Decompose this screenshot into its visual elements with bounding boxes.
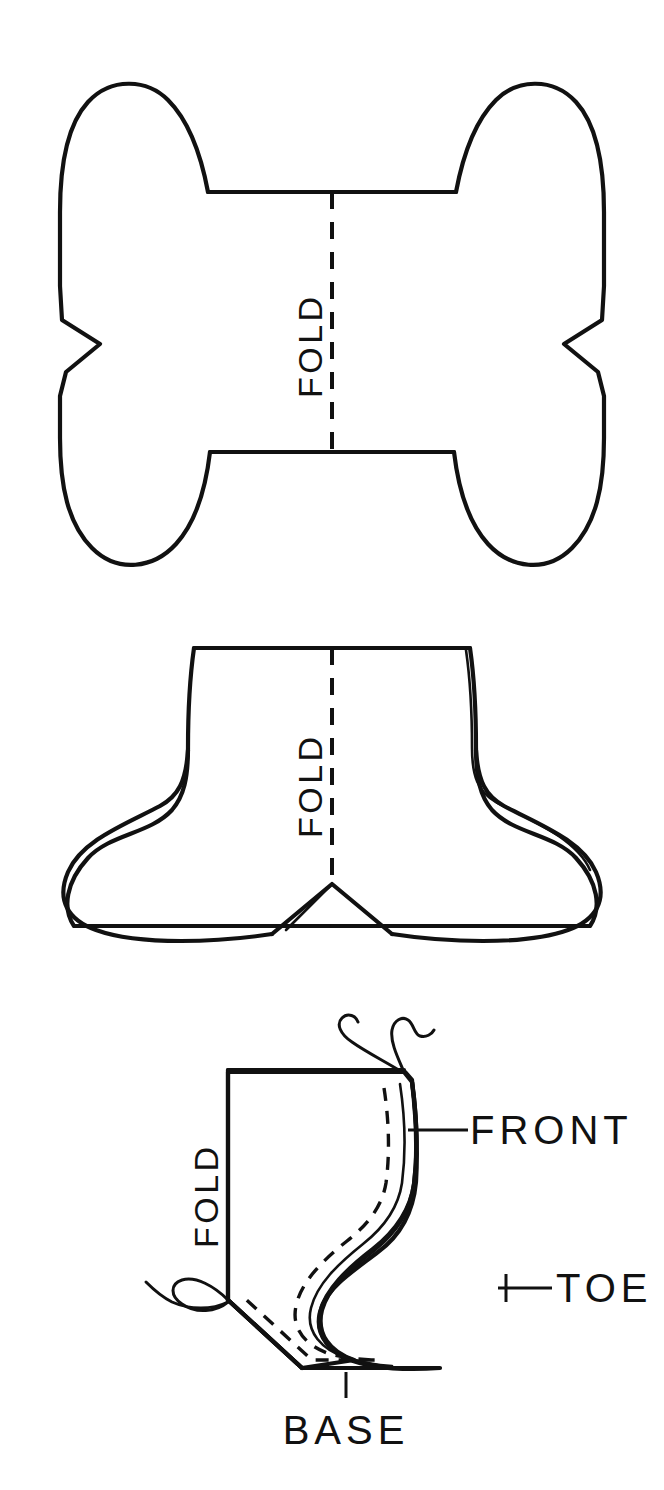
front-label: FRONT xyxy=(470,1108,633,1152)
finished-boot-fold-label: FOLD xyxy=(187,1143,225,1248)
figure-folded-pair: FOLD xyxy=(63,648,600,941)
folded-pair-front-seam xyxy=(466,650,590,870)
finished-boot-heel-edge xyxy=(228,1300,302,1368)
figure-flat-pattern: FOLD xyxy=(60,84,604,565)
folded-pair-right-outline xyxy=(332,648,597,926)
finished-boot-outline xyxy=(228,1072,440,1369)
figure-finished-boot: FOLD FRONT TOE BASE xyxy=(146,1015,653,1452)
finished-boot-thread-heel-tail xyxy=(146,1282,228,1308)
folded-pair-fold-label: FOLD xyxy=(291,733,329,838)
folded-pair-notch-seam xyxy=(286,886,330,930)
flat-pattern-fold-label: FOLD xyxy=(291,293,329,398)
finished-boot-stitch-line xyxy=(240,1088,388,1360)
base-label: BASE xyxy=(283,1408,410,1452)
folded-pair-left-sole xyxy=(63,750,272,941)
pattern-diagram-canvas: FOLD FOLD xyxy=(0,0,664,1490)
finished-boot-thread-right xyxy=(392,1018,434,1072)
diagram-page: FOLD FOLD xyxy=(0,0,664,1490)
finished-boot-front-toe-seam xyxy=(310,1084,405,1366)
toe-label: TOE xyxy=(556,1266,653,1310)
